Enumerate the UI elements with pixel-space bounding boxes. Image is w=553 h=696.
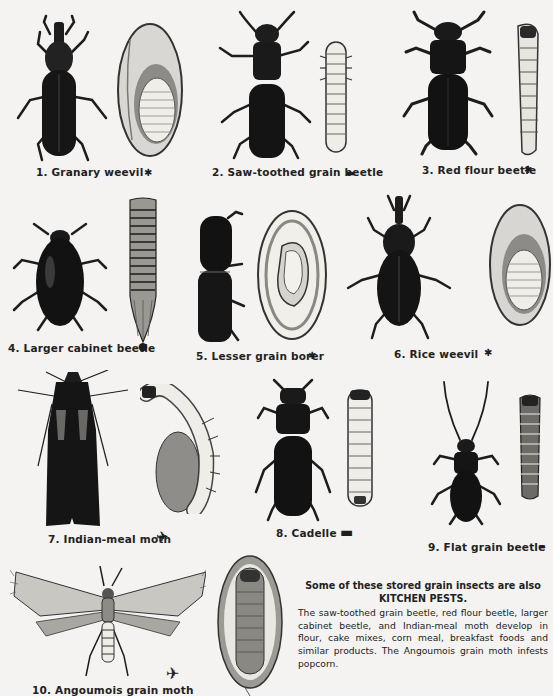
label-flat-grain-beetle: 9. Flat grain beetle [428,541,546,553]
label-angoumois-grain-moth: 10. Angoumois grain moth [32,684,194,696]
lesser-grain-borer-in-grain-illustration [254,206,330,344]
label-cadelle: 8. Cadelle [276,527,337,539]
cadelle-illustration [250,374,336,522]
caption-heading-line1: Some of these stored grain insects are a… [298,580,548,593]
label-saw-toothed-grain-beetle: 2. Saw-toothed grain beetle [212,166,383,178]
angoumois-moth-actual-size-icon: ✈ [166,664,179,683]
indian-meal-moth-larva-illustration [140,384,220,514]
lesser-grain-borer-actual-size-icon: ✱ [308,350,316,361]
label-rice-weevil: 6. Rice weevil [394,348,478,360]
weevil-in-grain-illustration [114,20,186,160]
red-flour-beetle-larva-illustration [508,20,548,160]
indian-meal-moth-actual-size-icon: ✈ [156,528,169,546]
flat-grain-beetle-illustration [426,380,506,530]
caption-body: The saw-toothed grain beetle, red flour … [298,607,548,670]
cadelle-actual-size-icon: ▬ [340,524,353,540]
granary-weevil-illustration [8,14,108,164]
label-larger-cabinet-beetle: 4. Larger cabinet beetle [8,342,155,354]
cadelle-larva-illustration [340,386,380,510]
cabinet-beetle-actual-size-icon: ● [138,340,148,353]
larger-cabinet-beetle-illustration [10,218,110,336]
label-indian-meal-moth: 7. Indian-meal moth [48,533,171,545]
granary-weevil-actual-size-icon: ✱ [144,167,152,178]
label-red-flour-beetle: 3. Red flour beetle [422,164,536,176]
red-flour-beetle-illustration [398,8,498,156]
caption-heading-line2: KITCHEN PESTS. [298,593,548,606]
label-granary-weevil: 1. Granary weevil [36,166,143,178]
kitchen-pests-caption: Some of these stored grain insects are a… [298,580,548,670]
red-flour-beetle-actual-size-icon: ✱ [524,164,532,175]
rice-weevil-actual-size-icon: ✱ [484,347,492,358]
saw-toothed-larva-illustration [318,38,354,156]
angoumois-larva-in-grain-illustration [214,552,286,696]
cabinet-beetle-larva-illustration [120,196,166,346]
saw-toothed-actual-size-icon: ▬ [346,168,355,178]
saw-toothed-grain-beetle-illustration [216,6,316,164]
rice-weevil-illustration [344,190,454,340]
indian-meal-moth-illustration [8,370,132,530]
label-lesser-grain-borer: 5. Lesser grain borer [196,350,324,362]
insect-plate: 1. Granary weevil ✱ [0,0,553,696]
rice-weevil-in-grain-illustration [486,200,552,330]
flat-grain-beetle-actual-size-icon: ▬ [538,542,546,551]
flat-grain-beetle-larva-illustration [512,392,548,502]
lesser-grain-borer-illustration [188,206,248,346]
